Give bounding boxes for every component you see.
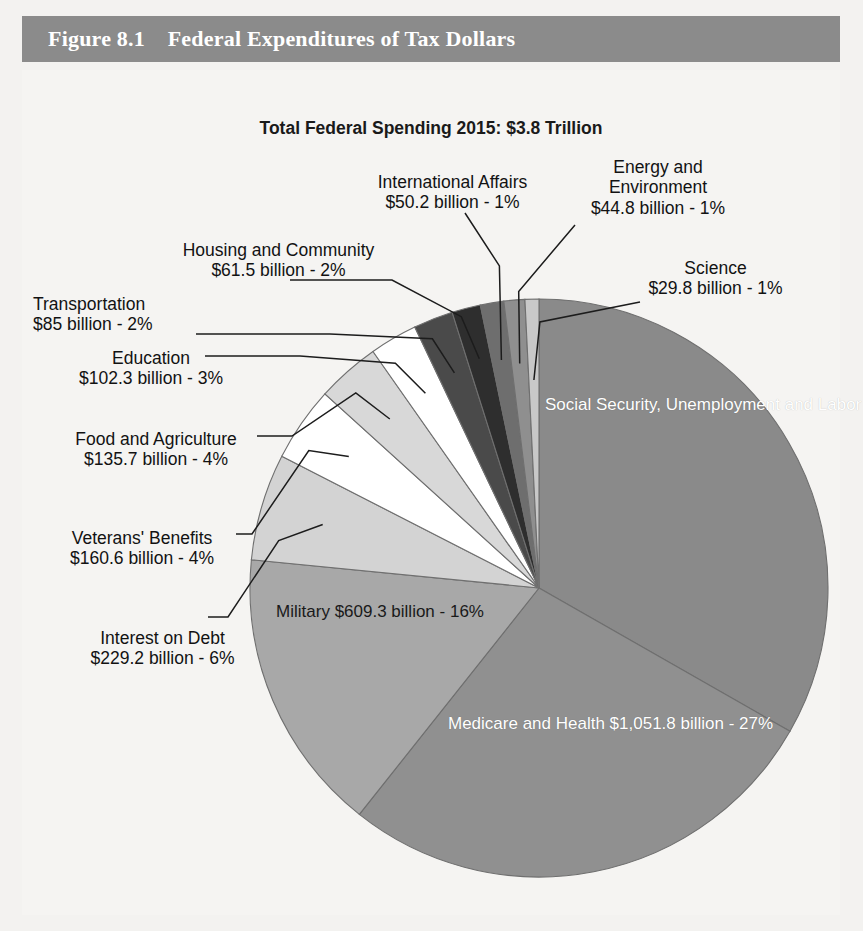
label-medicare-and-health-value: $1,051.8 billion - 27%	[610, 714, 774, 733]
label-housing-and-community-value: $61.5 billion - 2%	[136, 260, 421, 280]
label-interest-on-debt-name: Interest on Debt	[40, 628, 285, 648]
figure-page: Figure 8.1 Federal Expenditures of Tax D…	[0, 0, 863, 931]
label-medicare-and-health: Medicare and Health $1,051.8 billion - 2…	[448, 713, 738, 735]
label-veterans-benefits-value: $160.6 billion - 4%	[22, 548, 262, 568]
label-housing-and-community-name: Housing and Community	[136, 240, 421, 260]
label-veterans-benefits-name: Veterans' Benefits	[22, 528, 262, 548]
label-veterans-benefits: Veterans' Benefits $160.6 billion - 4%	[22, 528, 262, 569]
label-education-value: $102.3 billion - 3%	[31, 368, 271, 388]
label-transportation: Transportation $85 billion - 2%	[33, 294, 273, 335]
label-housing-and-community: Housing and Community $61.5 billion - 2%	[136, 240, 421, 281]
label-education-name: Education	[31, 348, 271, 368]
label-science-name: Science	[608, 258, 823, 278]
label-transportation-name: Transportation	[33, 294, 273, 314]
label-transportation-value: $85 billion - 2%	[33, 314, 273, 334]
label-international-affairs-value: $50.2 billion - 1%	[345, 192, 560, 212]
label-military-value: $609.3 billion - 16%	[335, 602, 484, 621]
label-energy-and-environment-name2: Environment	[548, 177, 768, 197]
label-military-name: Military	[276, 602, 330, 621]
label-international-affairs: International Affairs $50.2 billion - 1%	[345, 172, 560, 213]
label-interest-on-debt: Interest on Debt $229.2 billion - 6%	[40, 628, 285, 669]
label-social-security-name1: Social Security,	[545, 395, 661, 414]
label-social-security-name2: Unemployment and	[666, 395, 813, 414]
chart-title: Total Federal Spending 2015: $3.8 Trilli…	[22, 118, 840, 139]
label-military: Military $609.3 billion - 16%	[255, 601, 505, 623]
label-social-security: Social Security, Unemployment and Labor …	[545, 394, 775, 416]
label-energy-and-environment: Energy and Environment $44.8 billion - 1…	[548, 157, 768, 218]
label-social-security-name3: Labor	[818, 395, 861, 414]
figure-header-bar: Figure 8.1 Federal Expenditures of Tax D…	[22, 16, 840, 62]
label-energy-and-environment-value: $44.8 billion - 1%	[548, 198, 768, 218]
label-science-value: $29.8 billion - 1%	[608, 278, 823, 298]
label-education: Education $102.3 billion - 3%	[31, 348, 271, 389]
label-food-and-agriculture-value: $135.7 billion - 4%	[31, 449, 281, 469]
label-food-and-agriculture: Food and Agriculture $135.7 billion - 4%	[31, 429, 281, 470]
label-medicare-and-health-name: Medicare and Health	[448, 714, 605, 733]
figure-header-title: Figure 8.1 Federal Expenditures of Tax D…	[48, 26, 515, 52]
label-interest-on-debt-value: $229.2 billion - 6%	[40, 648, 285, 668]
label-food-and-agriculture-name: Food and Agriculture	[31, 429, 281, 449]
label-energy-and-environment-name1: Energy and	[548, 157, 768, 177]
label-international-affairs-name: International Affairs	[345, 172, 560, 192]
label-science: Science $29.8 billion - 1%	[608, 258, 823, 299]
